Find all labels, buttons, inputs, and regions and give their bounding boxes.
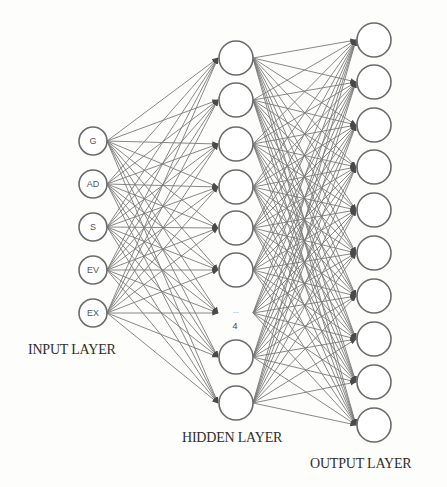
hidden-node xyxy=(219,170,253,204)
input-node-label: EV xyxy=(87,265,99,275)
connection-edge xyxy=(107,270,218,403)
output-node xyxy=(357,108,391,142)
hidden-node-circle xyxy=(219,211,253,245)
output-node xyxy=(357,408,391,442)
connection-edge xyxy=(107,313,218,357)
network-graph: GADSEVEX...4 xyxy=(0,0,447,487)
output-layer-label: OUTPUT LAYER xyxy=(310,456,411,472)
connection-edge xyxy=(107,270,218,357)
output-node xyxy=(357,193,391,227)
input-node: S xyxy=(79,213,107,241)
input-node-label: S xyxy=(90,222,96,232)
output-node xyxy=(357,150,391,184)
connection-edge xyxy=(107,227,218,357)
output-node-circle xyxy=(357,279,391,313)
input-node-label: G xyxy=(89,136,96,146)
hidden-node-circle xyxy=(219,41,253,75)
hidden-node xyxy=(219,253,253,287)
hidden-ellipsis-annotation: 4 xyxy=(232,321,237,331)
hidden-node xyxy=(219,41,253,75)
output-node xyxy=(357,65,391,99)
input-layer-label: INPUT LAYER xyxy=(28,342,116,358)
hidden-node xyxy=(219,127,253,161)
connection-edge xyxy=(107,58,218,270)
connection-edge xyxy=(107,227,218,403)
output-node-circle xyxy=(357,322,391,356)
neural-network-diagram: GADSEVEX...4 INPUT LAYER HIDDEN LAYER OU… xyxy=(0,0,447,487)
hidden-ellipsis: ... xyxy=(233,307,239,314)
connection-edge xyxy=(107,58,218,141)
connection-edge xyxy=(253,382,356,403)
output-node xyxy=(357,236,391,270)
output-node-circle xyxy=(357,193,391,227)
hidden-node-circle xyxy=(219,340,253,374)
hidden-node xyxy=(219,386,253,420)
connection-edge xyxy=(107,58,218,313)
hidden-node xyxy=(219,83,253,117)
output-node-circle xyxy=(357,365,391,399)
connection-edge xyxy=(253,403,356,425)
hidden-node-circle xyxy=(219,83,253,117)
output-node xyxy=(357,365,391,399)
input-node-label: EX xyxy=(87,308,99,318)
input-node: EX xyxy=(79,299,107,327)
output-node xyxy=(357,322,391,356)
connection-edge xyxy=(107,58,218,227)
hidden-layer-label: HIDDEN LAYER xyxy=(182,430,282,446)
input-node: AD xyxy=(79,170,107,198)
hidden-node xyxy=(219,211,253,245)
connection-edge xyxy=(107,313,218,403)
connection-edge xyxy=(253,210,356,403)
hidden-node-circle xyxy=(219,127,253,161)
output-node-circle xyxy=(357,65,391,99)
output-node-circle xyxy=(357,236,391,270)
hidden-node-circle xyxy=(219,253,253,287)
output-node-circle xyxy=(357,108,391,142)
output-node-circle xyxy=(357,23,391,57)
hidden-node-circle xyxy=(219,386,253,420)
input-node: G xyxy=(79,127,107,155)
output-node-circle xyxy=(357,150,391,184)
connection-edge xyxy=(107,58,218,184)
output-node xyxy=(357,23,391,57)
input-node: EV xyxy=(79,256,107,284)
hidden-node xyxy=(219,340,253,374)
hidden-node-circle xyxy=(219,170,253,204)
output-node xyxy=(357,279,391,313)
output-node-circle xyxy=(357,408,391,442)
input-node-label: AD xyxy=(87,179,100,189)
